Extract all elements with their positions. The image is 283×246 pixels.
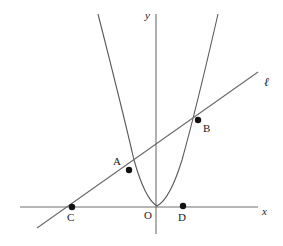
y-axis-label: y	[145, 10, 150, 21]
point-d-label: D	[178, 212, 186, 223]
geometry-figure: y x O ℓ A B C D	[0, 0, 283, 246]
point-b-label: B	[203, 123, 210, 134]
point-a-marker	[126, 167, 132, 173]
point-c-label: C	[67, 212, 74, 223]
origin-label: O	[144, 210, 152, 221]
line-l-label: ℓ	[264, 76, 269, 88]
point-d-marker	[180, 203, 186, 209]
point-a-label: A	[113, 156, 121, 167]
point-b-marker	[195, 117, 201, 123]
point-c-marker	[69, 204, 75, 210]
parabola-curve	[98, 14, 218, 206]
x-axis-label: x	[262, 206, 267, 217]
figure-canvas	[0, 0, 283, 246]
